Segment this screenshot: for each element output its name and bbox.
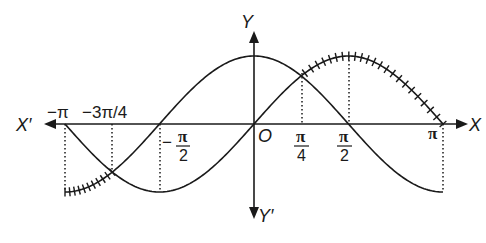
hatch-mark: [342, 52, 343, 61]
minus-sign: −: [162, 133, 172, 152]
hatch-mark: [105, 172, 110, 179]
hatch-mark: [302, 70, 307, 77]
hatch-mark: [96, 178, 101, 186]
tick-label-pi: π: [428, 124, 438, 143]
fraction-numerator: π: [296, 127, 306, 146]
hatch-mark: [69, 187, 70, 196]
hatch-mark: [309, 65, 314, 73]
hatch-mark: [355, 52, 356, 61]
tick-label-pi-2: π 2: [337, 127, 352, 164]
origin-label: O: [258, 126, 272, 146]
hatch-region-left: [65, 169, 115, 197]
x-positive-label: X: [468, 115, 482, 135]
hatch-mark: [335, 53, 337, 62]
y-positive-arrow-icon: [249, 31, 259, 43]
hatch-mark: [390, 70, 395, 77]
y-negative-label: Y′: [258, 206, 274, 226]
hatch-mark: [384, 65, 389, 72]
fraction-denominator: 2: [179, 147, 188, 164]
hatch-mark: [100, 175, 105, 183]
trig-graph: X′ X Y Y′ O −π −3π/4 − π 2 π 4 π 2 π: [0, 0, 486, 243]
tick-label-neg-pi: −π: [47, 103, 69, 122]
fraction-numerator: π: [339, 127, 349, 146]
fraction-denominator: 2: [340, 147, 349, 164]
x-positive-arrow-icon: [456, 119, 468, 129]
x-negative-label: X′: [15, 115, 32, 135]
axes: [44, 31, 468, 219]
hatch-mark: [74, 187, 76, 196]
tick-label-neg-pi-2: − π 2: [162, 127, 190, 164]
hatch-region-right: [302, 52, 446, 127]
tick-label-pi-4: π 4: [294, 127, 309, 164]
y-positive-label: Y: [241, 12, 255, 32]
fraction-denominator: 4: [297, 147, 306, 164]
fraction-numerator: π: [178, 127, 188, 146]
tick-label-neg-3pi-4: −3π/4: [82, 103, 127, 122]
